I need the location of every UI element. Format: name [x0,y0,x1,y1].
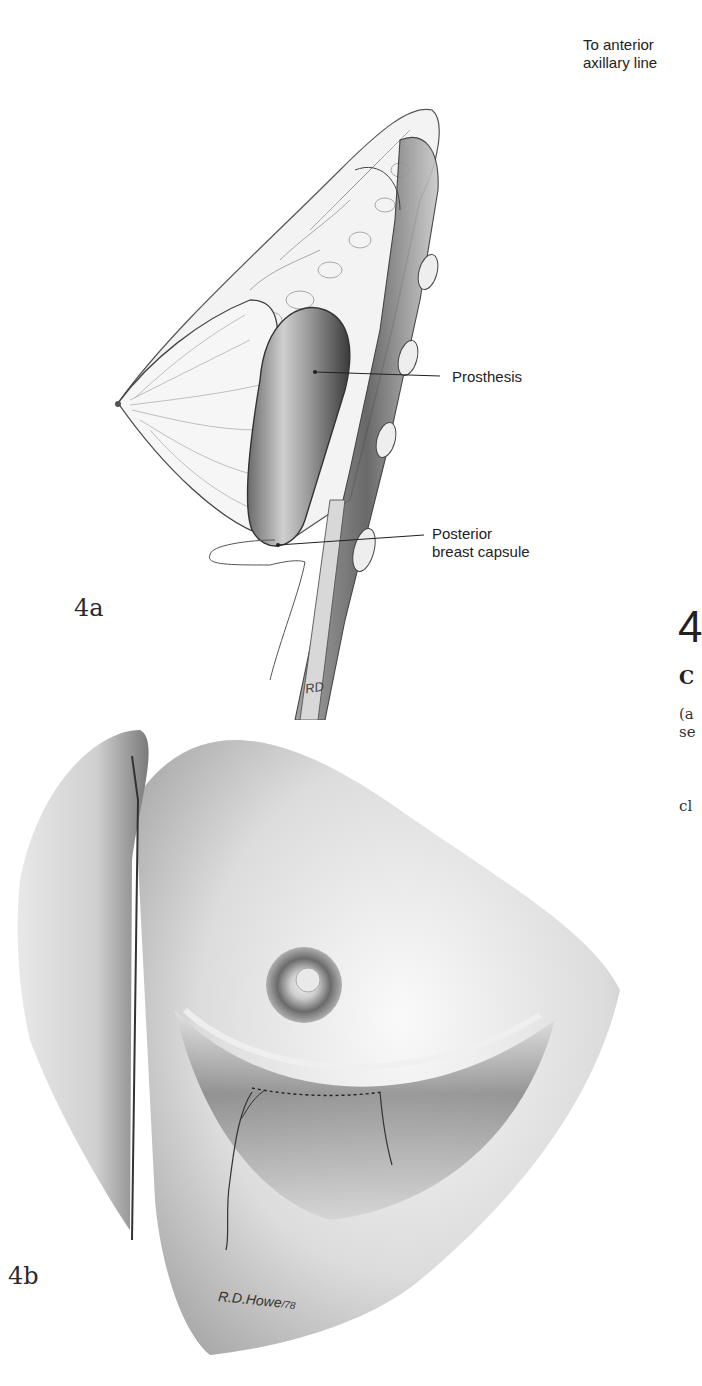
section-number: 4 [678,604,702,650]
anterior-axillary-line-label: To anterior axillary line [583,36,657,72]
label-line-2: breast capsule [432,543,530,561]
section-heading-initial: C [679,666,694,688]
label-line-1: To anterior [583,36,657,54]
text-line: (a [679,705,696,723]
body-text-fragment-2: cl [679,797,692,815]
prosthesis-label: Prosthesis [452,368,522,386]
label-line-1: Posterior [432,525,530,543]
posterior-capsule-label: Posterior breast capsule [432,525,530,561]
text-line: se [679,723,696,741]
body-text-fragment: (a se [679,705,696,741]
label-line-2: axillary line [583,54,657,72]
artist-initials-4a: RD [304,678,325,696]
signature-year: /78 [281,1299,296,1311]
figure-4a-number: 4a [74,594,104,622]
figure-4b-number: 4b [8,1262,39,1290]
